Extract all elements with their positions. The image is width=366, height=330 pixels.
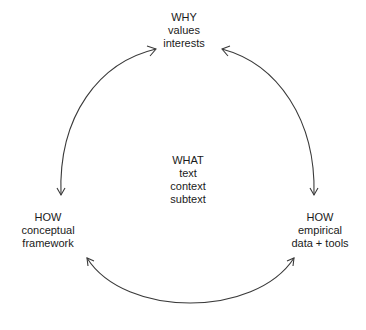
node-how-conceptual-line-1: conceptual [0,224,96,237]
cycle-diagram: WHY values interests WHAT text context s… [0,0,366,330]
node-how-empirical: HOW empirical data + tools [272,211,366,250]
node-why-title: WHY [136,11,232,24]
node-what-title: WHAT [140,154,236,167]
node-why-line-1: values [136,24,232,37]
node-how-conceptual-title: HOW [0,211,96,224]
node-what: WHAT text context subtext [140,154,236,206]
node-how-empirical-line-2: data + tools [272,237,366,250]
node-why-line-2: interests [136,37,232,50]
arrow-how-left-to-how-right [87,258,294,303]
node-how-conceptual: HOW conceptual framework [0,211,96,250]
node-how-conceptual-line-2: framework [0,237,96,250]
node-how-empirical-line-1: empirical [272,224,366,237]
node-what-line-3: subtext [140,193,236,206]
node-what-line-2: context [140,180,236,193]
node-what-line-1: text [140,167,236,180]
arrow-why-to-how-right [222,46,318,195]
node-why: WHY values interests [136,11,232,50]
node-how-empirical-title: HOW [272,211,366,224]
